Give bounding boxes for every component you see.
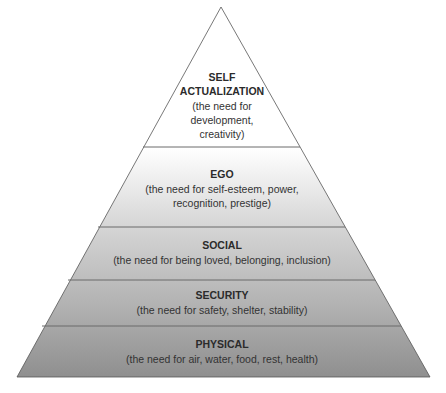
level-title: SECURITY bbox=[195, 289, 248, 301]
level-description: recognition, prestige) bbox=[173, 197, 271, 209]
level-title: SELF bbox=[209, 71, 236, 83]
level-description: (the need for self-esteem, power, bbox=[145, 183, 299, 195]
level-description: (the need for being loved, belonging, in… bbox=[113, 254, 331, 266]
level-title: EGO bbox=[210, 168, 233, 180]
level-title: ACTUALIZATION bbox=[180, 85, 264, 97]
pyramid-diagram: SELF ACTUALIZATION (the need for develop… bbox=[0, 0, 446, 393]
level-title: SOCIAL bbox=[202, 239, 242, 251]
level-description: (the need for safety, shelter, stability… bbox=[137, 304, 308, 316]
level-description: creativity) bbox=[200, 128, 245, 140]
level-title: PHYSICAL bbox=[195, 338, 249, 350]
level-description: development, bbox=[190, 114, 253, 126]
level-description: (the need for air, water, food, rest, he… bbox=[126, 353, 318, 365]
level-description: (the need for bbox=[192, 100, 252, 112]
